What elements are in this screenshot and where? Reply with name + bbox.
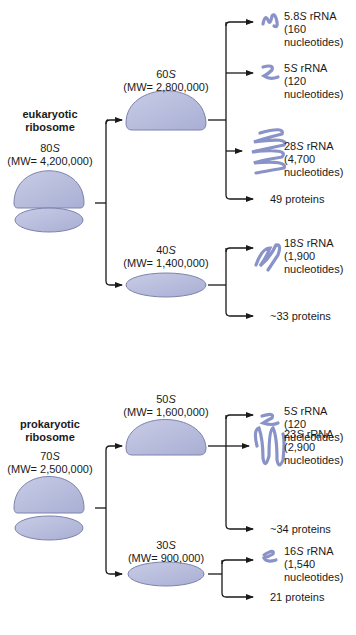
nucleotide-unit: nucleotides) xyxy=(284,88,343,101)
s-unit: S xyxy=(168,539,175,551)
rrna-name: 28 xyxy=(284,140,296,152)
mw-value: (MW= 4,200,000) xyxy=(0,155,100,168)
eukaryotic-60s-subunit-shape xyxy=(126,91,206,130)
nucleotide-count: (160 xyxy=(284,23,343,36)
rrna-name: 23 xyxy=(284,428,296,440)
rna-5s-icon xyxy=(263,66,278,78)
s-value: 70 xyxy=(40,450,52,462)
prokaryotic-50s-proteins: ~34 proteins xyxy=(270,523,331,536)
prokaryotic-70s-label: 70S (MW= 2,500,000) xyxy=(0,450,100,476)
rna-5-8s-icon xyxy=(263,15,277,27)
rrna-suffix: rRNA xyxy=(304,428,334,440)
s-unit: S xyxy=(52,142,59,154)
s-value: 30 xyxy=(156,539,168,551)
eukaryotic-80s-label: 80S (MW= 4,200,000) xyxy=(0,142,100,168)
prokaryotic-50s-subunit-shape xyxy=(126,420,206,456)
nucleotide-count: (1,900 xyxy=(284,250,343,263)
rrna-18s-label: 18S rRNA (1,900 nucleotides) xyxy=(284,237,343,276)
rna-18s-icon xyxy=(256,245,280,270)
title-line: eukaryotic xyxy=(10,108,90,121)
nucleotide-count: (1,540 xyxy=(284,558,343,571)
s-unit: S xyxy=(52,450,59,462)
nucleotide-count: (2,900 xyxy=(284,441,343,454)
mw-value: (MW= 1,600,000) xyxy=(116,406,216,419)
rrna-23s-label: 23S rRNA (2,900 nucleotides) xyxy=(284,428,343,467)
s-unit: S xyxy=(299,10,306,22)
nucleotide-count: (120 xyxy=(284,75,343,88)
nucleotide-unit: nucleotides) xyxy=(284,263,343,276)
mw-value: (MW= 2,500,000) xyxy=(0,463,100,476)
s-unit: S xyxy=(296,237,303,249)
eukaryotic-40s-proteins: ~33 proteins xyxy=(270,310,331,323)
prokaryotic-30s-subunit-shape xyxy=(128,562,204,586)
nucleotide-unit: nucleotides) xyxy=(284,454,343,467)
rrna-16s-label: 16S rRNA (1,540 nucleotides) xyxy=(284,545,343,584)
rna-28s-icon xyxy=(252,130,285,173)
s-unit: S xyxy=(168,393,175,405)
eukaryotic-40s-subunit-shape xyxy=(126,273,206,297)
rrna-suffix: rRNA xyxy=(307,10,337,22)
title-line: prokaryotic xyxy=(10,418,90,431)
s-value: 40 xyxy=(156,244,168,256)
eukaryotic-title: eukaryotic ribosome xyxy=(10,108,90,134)
s-value: 60 xyxy=(156,68,168,80)
prokaryotic-title: prokaryotic ribosome xyxy=(10,418,90,444)
mw-value: (MW= 1,400,000) xyxy=(116,257,216,270)
rrna-suffix: rRNA xyxy=(297,62,327,74)
rna-5s-prok-icon xyxy=(262,414,278,424)
prokaryotic-70s-ribosome-shape xyxy=(14,477,84,541)
rna-23s-icon xyxy=(255,428,284,465)
eukaryotic-80s-ribosome-shape xyxy=(14,171,84,232)
rrna-name: 16 xyxy=(284,545,296,557)
rrna-5-8s-label: 5.8S rRNA (160 nucleotides) xyxy=(284,10,343,49)
rna-16s-icon xyxy=(264,551,276,561)
s-unit: S xyxy=(168,68,175,80)
eukaryotic-60s-proteins: 49 proteins xyxy=(270,193,324,206)
prokaryotic-30s-proteins: 21 proteins xyxy=(270,591,324,604)
eukaryotic-split-connector xyxy=(95,22,253,316)
rrna-5s-label: 5S rRNA (120 nucleotides) xyxy=(284,62,343,101)
title-line: ribosome xyxy=(10,431,90,444)
rrna-28s-label: 28S rRNA (4,700 nucleotides) xyxy=(284,140,343,179)
title-line: ribosome xyxy=(10,121,90,134)
rrna-name: 5.8 xyxy=(284,10,299,22)
s-unit: S xyxy=(296,428,303,440)
nucleotide-unit: nucleotides) xyxy=(284,571,343,584)
rrna-name: 18 xyxy=(284,237,296,249)
nucleotide-unit: nucleotides) xyxy=(284,166,343,179)
eukaryotic-60s-label: 60S (MW= 2,800,000) xyxy=(116,68,216,94)
rrna-suffix: rRNA xyxy=(304,545,334,557)
prokaryotic-30s-label: 30S (MW= 900,000) xyxy=(116,539,216,565)
s-unit: S xyxy=(296,545,303,557)
rrna-suffix: rRNA xyxy=(297,405,327,417)
s-unit: S xyxy=(296,140,303,152)
s-value: 80 xyxy=(40,142,52,154)
s-value: 50 xyxy=(156,393,168,405)
mw-value: (MW= 2,800,000) xyxy=(116,81,216,94)
eukaryotic-40s-label: 40S (MW= 1,400,000) xyxy=(116,244,216,270)
nucleotide-unit: nucleotides) xyxy=(284,36,343,49)
mw-value: (MW= 900,000) xyxy=(116,552,216,565)
rrna-suffix: rRNA xyxy=(304,237,334,249)
prokaryotic-50s-label: 50S (MW= 1,600,000) xyxy=(116,393,216,419)
s-unit: S xyxy=(168,244,175,256)
rrna-suffix: rRNA xyxy=(304,140,334,152)
nucleotide-count: (4,700 xyxy=(284,153,343,166)
